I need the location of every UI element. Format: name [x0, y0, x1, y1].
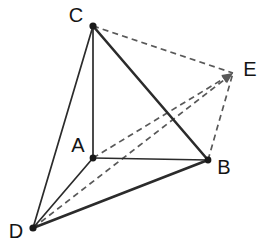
edge-C-B	[93, 26, 208, 160]
vertex-label-a: A	[71, 134, 85, 156]
edge-C-D	[33, 26, 93, 228]
edge-B-E	[208, 73, 233, 160]
vertex-dot-c	[89, 22, 96, 29]
vertex-label-e: E	[243, 58, 256, 80]
vertex-label-b: B	[217, 156, 230, 178]
edge-D-E	[33, 79, 226, 228]
edge-A-B	[93, 158, 208, 160]
vertex-dot-a	[90, 155, 97, 162]
vertex-label-c: C	[69, 4, 83, 26]
vertex-label-d: D	[9, 220, 23, 242]
vertex-dot-b	[205, 157, 212, 164]
vertex-dot-d	[29, 224, 36, 231]
edge-A-E	[93, 78, 225, 158]
geometry-canvas: ABCDE	[0, 0, 271, 251]
edge-D-B	[33, 160, 208, 228]
geometry-figure: ABCDE	[0, 0, 271, 251]
